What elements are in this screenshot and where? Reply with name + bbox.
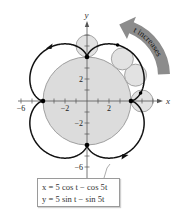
x-tick-label: −6 (17, 104, 26, 113)
equation-leader-line (104, 164, 110, 178)
y-axis-label: y (84, 10, 89, 20)
curve-direction-arrow-icon (122, 154, 129, 160)
equation-y: y = 5 sin t − sin 5t (42, 193, 119, 205)
cusp-point (85, 143, 90, 148)
equation-box: x = 5 cos t − cos 5t y = 5 sin t − sin 5… (37, 178, 120, 207)
curve-point (116, 43, 120, 47)
cusp-point (41, 99, 46, 104)
x-axis-label: x (165, 96, 170, 106)
curve-point (139, 91, 143, 95)
x-axis-arrowhead-icon (157, 99, 163, 103)
y-tick-label: −6 (74, 163, 83, 172)
equation-x: x = 5 cos t − cos 5t (42, 181, 119, 193)
y-tick-label: 2 (79, 75, 83, 84)
t-increases-label: t increases (132, 25, 164, 58)
y-tick-label: −2 (74, 119, 83, 128)
curve-direction-arrow-icon (46, 44, 53, 50)
y-axis-arrowhead-icon (85, 21, 89, 27)
x-tick-label: −2 (61, 104, 70, 113)
cusp-point (129, 99, 134, 104)
cusp-point (85, 55, 90, 60)
x-tick-label: 2 (107, 104, 111, 113)
